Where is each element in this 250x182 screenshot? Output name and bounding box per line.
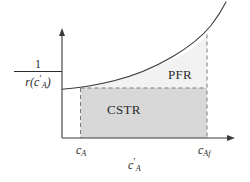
- levenspiel-plot-figure: 1 r(c′A) PFR CSTR cA cAf c′A: [0, 0, 250, 182]
- x-axis-title-subscript: A: [136, 164, 141, 173]
- y-axis-arrowhead: [59, 28, 65, 36]
- y-denominator-close-paren: ): [47, 75, 51, 89]
- x-tick-label-ca: cA: [76, 144, 86, 158]
- pfr-region-label: PFR: [168, 68, 192, 81]
- x-axis-label: c′A: [128, 157, 141, 173]
- x-tick-label-caf: cAf: [198, 144, 211, 158]
- y-axis-denominator: r(c′A): [12, 72, 64, 90]
- y-axis-label: 1 r(c′A): [12, 58, 64, 90]
- cstr-region-fill: [81, 88, 208, 138]
- x-tick-right-subscript: Af: [203, 149, 210, 158]
- x-tick-left-subscript: A: [81, 149, 86, 158]
- y-axis-numerator: 1: [12, 58, 64, 71]
- plot-canvas: [0, 0, 250, 182]
- cstr-region-label: CSTR: [107, 103, 141, 116]
- x-axis-arrowhead: [227, 135, 235, 141]
